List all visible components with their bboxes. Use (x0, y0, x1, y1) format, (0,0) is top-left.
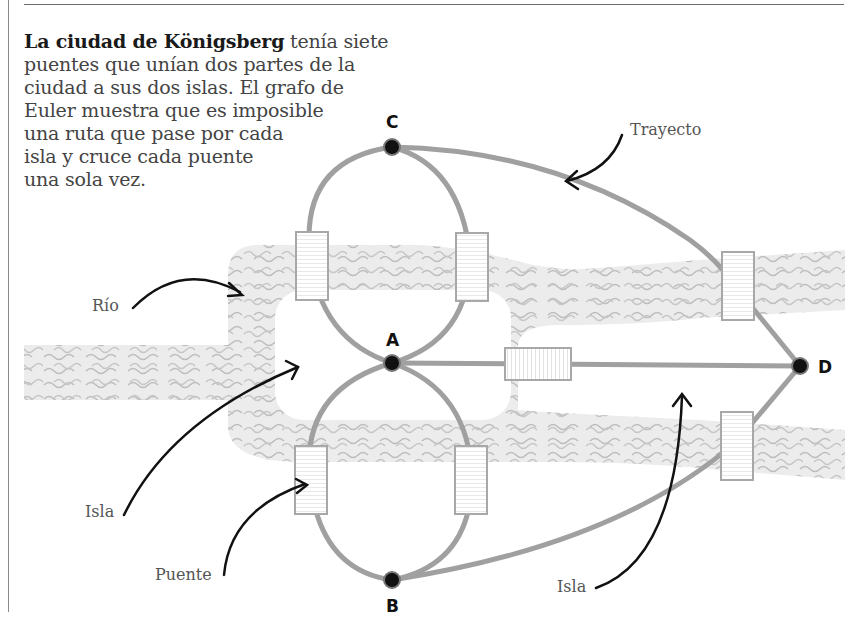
node-d (792, 358, 808, 374)
arrow-puente (224, 484, 305, 575)
bridge-5 (505, 348, 571, 380)
bridge-6 (722, 252, 754, 320)
intro-line-6: una sola vez. (24, 168, 444, 191)
edge-a-d (392, 363, 800, 366)
bridge-4 (455, 446, 487, 514)
node-label-b: B (386, 596, 399, 616)
node-label-d: D (818, 357, 832, 377)
intro-paragraph: La ciudad de Königsberg tenía siete puen… (24, 30, 444, 191)
intro-line-0: tenía siete (284, 30, 388, 52)
intro-line-1: puentes que unían dos partes de la (24, 53, 444, 76)
bridge-7 (721, 412, 753, 480)
intro-title: La ciudad de Königsberg (24, 30, 284, 52)
intro-line-2: ciudad a sus dos islas. El grafo de (24, 76, 444, 99)
label-trayecto: Trayecto (630, 120, 701, 139)
bridge-2 (456, 233, 488, 301)
intro-line-3: Euler muestra que es imposible (24, 99, 444, 122)
intro-line-5: isla y cruce cada puente (24, 145, 444, 168)
label-isla-left: Isla (85, 502, 115, 521)
node-b (384, 572, 400, 588)
label-rio: Río (92, 296, 119, 315)
bridge-1 (296, 232, 328, 300)
label-isla-right: Isla (557, 577, 587, 596)
intro-line-4: una ruta que pase por cada (24, 122, 444, 145)
arrow-rio (133, 279, 240, 308)
node-a (384, 355, 400, 371)
node-label-a: A (386, 330, 400, 350)
label-puente: Puente (155, 565, 212, 584)
